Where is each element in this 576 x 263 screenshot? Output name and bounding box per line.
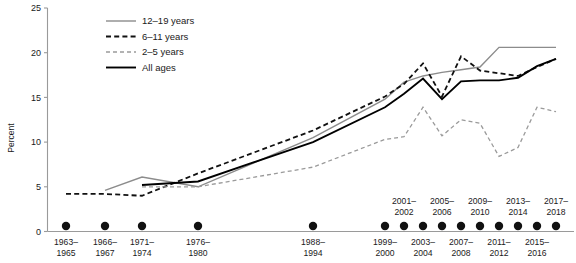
series-line-2 [66,56,556,195]
category-dot [101,222,109,230]
x-category-label-line1: 2001– [392,196,416,206]
x-category-label-line1: 1999– [373,237,397,247]
x-category-label: 2015–2016 [525,237,549,258]
x-category-label: 1971–1974 [130,237,154,258]
category-dot [309,222,317,230]
x-category-label: 2017–2018 [544,196,568,217]
x-category-label: 2005–2006 [430,196,454,217]
category-dot [381,222,389,230]
legend-item: 6–11 years [106,31,189,42]
x-category-label: 2003–2004 [411,237,435,258]
y-tick-label: 10 [31,137,41,147]
legend-label: 2–5 years [142,46,184,57]
category-dot [476,222,484,230]
x-category-label-line2: 2012 [489,248,508,258]
x-category-label: 2001–2002 [392,196,416,217]
legend-item: All ages [106,62,176,73]
x-category-label-line2: 2018 [546,207,565,217]
x-category-label: 1976–1980 [186,237,210,258]
x-category-label-line2: 2008 [451,248,470,258]
x-category-label-line2: 2000 [375,248,394,258]
x-category-label: 1999–2000 [373,237,397,258]
category-dot [495,222,503,230]
x-category-label-line2: 1965 [56,248,75,258]
y-tick-label: 5 [36,182,41,192]
category-dot [533,222,541,230]
y-axis-title-text: Percent [6,123,16,153]
category-dot [138,222,146,230]
x-category-label-line2: 2006 [432,207,451,217]
y-axis-ticks: 0510152025 [31,3,48,237]
line-chart-plot: 0510152025 Percent 1963–19651966–1967197… [0,0,576,263]
x-category-label: 1966–1967 [93,237,117,258]
y-tick-label: 25 [31,3,41,13]
x-category-label-line1: 2015– [525,237,549,247]
chart-container: 0510152025 Percent 1963–19651966–1967197… [0,0,576,263]
category-dot [514,222,522,230]
x-category-label: 2013–2014 [506,196,530,217]
x-category-label-line1: 2003– [411,237,435,247]
legend-item: 12–19 years [106,15,195,26]
series-layer [66,47,556,195]
category-dot [400,222,408,230]
x-category-label-line2: 2004 [413,248,432,258]
x-category-label-line2: 2002 [394,207,413,217]
y-tick-label: 15 [31,93,41,103]
x-category-label-line2: 2016 [527,248,546,258]
category-dot [457,222,465,230]
x-category-label-line2: 1980 [188,248,207,258]
x-category-label-line1: 2017– [544,196,568,206]
x-category-label: 2011–2012 [487,237,510,258]
category-dot [62,222,70,230]
series-line-4 [142,59,556,185]
x-category-label-line1: 2007– [449,237,473,247]
category-dot [194,222,202,230]
x-category-label-line2: 2010 [470,207,489,217]
x-category-label-line1: 2009– [468,196,492,206]
x-category-label: 2007–2008 [449,237,473,258]
legend-item: 2–5 years [106,46,184,57]
category-dot [438,222,446,230]
x-category-label-line2: 1994 [303,248,322,258]
category-dot [552,222,560,230]
x-category-label-line1: 1963– [54,237,78,247]
x-category-label-line1: 1971– [130,237,154,247]
y-axis-title: Percent [6,123,16,153]
x-category-label-line1: 2013– [506,196,530,206]
category-dot [419,222,427,230]
legend-label: 6–11 years [142,31,189,42]
x-category-label: 2009–2010 [468,196,492,217]
legend-label: All ages [142,62,176,73]
y-tick-label: 20 [31,48,41,58]
x-category-label-line2: 2014 [508,207,527,217]
legend-label: 12–19 years [142,15,195,26]
x-category-label: 1988–1994 [301,237,325,258]
x-category-label-line2: 1967 [95,248,114,258]
x-category-label-line1: 2005– [430,196,454,206]
x-category-label-line1: 1988– [301,237,325,247]
x-category-label-line2: 1974 [132,248,151,258]
x-category-label-line1: 1966– [93,237,117,247]
y-tick-label: 0 [36,227,41,237]
x-category-label-line1: 1976– [186,237,210,247]
chart-legend: 12–19 years6–11 years2–5 yearsAll ages [106,15,195,73]
x-category-label: 1963–1965 [54,237,78,258]
x-category-label-line1: 2011– [487,237,510,247]
category-marker-dots [62,222,560,230]
